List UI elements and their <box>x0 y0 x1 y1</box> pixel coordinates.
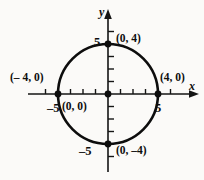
point-dot-top <box>105 41 112 48</box>
point-label-top: (0, 4) <box>116 33 141 45</box>
x-tick-label-5: 5 <box>155 102 161 115</box>
point-label-origin: (0, 0) <box>62 101 87 113</box>
point-dot-left <box>55 91 62 98</box>
point-label-right: (4, 0) <box>160 72 185 84</box>
point-dot-right <box>155 91 162 98</box>
coordinate-plane-figure: (0, 4) (4, 0) (– 4, 0) (0, 0) (0, –4) 5 … <box>0 0 204 180</box>
point-label-bottom: (0, –4) <box>116 145 147 157</box>
y-axis-label: y <box>99 6 104 18</box>
point-dot-bottom <box>105 141 112 148</box>
x-tick-label-neg5: –5 <box>47 102 60 115</box>
y-tick-label-neg5: –5 <box>79 145 92 158</box>
y-axis-arrow-icon <box>104 9 112 19</box>
y-tick-label-5: 5 <box>94 36 100 49</box>
circle-plot-svg <box>0 0 204 180</box>
point-label-left: (– 4, 0) <box>10 72 44 84</box>
x-axis-label: x <box>189 80 195 92</box>
point-dot-origin <box>105 91 112 98</box>
